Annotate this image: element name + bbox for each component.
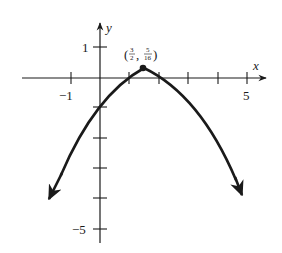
parabola-chart: y x −1 5 1 −5 ( 3 2 , 5 16 ) [0,0,282,253]
svg-text:(: ( [124,47,128,62]
right-curve-arrow [235,177,242,195]
left-curve-arrow [49,173,62,199]
svg-text:5: 5 [146,46,150,54]
x-axis-label: x [252,58,259,73]
x-tick-label-5: 5 [243,88,250,103]
svg-text:3: 3 [130,46,134,54]
y-tick-label-neg5: −5 [72,222,86,237]
vertex-label: ( 3 2 , 5 16 ) [124,46,157,62]
svg-text:,: , [136,47,139,62]
vertex-point [140,65,147,72]
y-axis-label: y [104,20,112,35]
y-tick-label-1: 1 [82,40,89,55]
parabola-curve [61,68,236,180]
x-tick-label-neg1: −1 [59,88,73,103]
svg-text:): ) [153,47,157,62]
svg-text:16: 16 [144,54,152,62]
svg-text:2: 2 [130,54,134,62]
